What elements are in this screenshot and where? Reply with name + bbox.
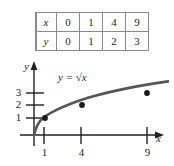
sqrt-curve	[34, 81, 168, 135]
table-cell-y-1: 1	[80, 32, 103, 51]
x-tick-label-4: 4	[76, 146, 87, 158]
math-figure: x 0 1 4 9 y 0 1 2 3	[0, 0, 174, 166]
table-cell-y-3: 3	[126, 32, 149, 51]
table-cell-x-3: 9	[126, 13, 149, 32]
data-point-4-2	[79, 102, 85, 108]
table-cell-x-0: 0	[57, 13, 80, 32]
table-cell-x-1: 1	[80, 13, 103, 32]
x-axis	[20, 132, 164, 139]
table-row-header-y: y	[36, 32, 57, 51]
table-row: x 0 1 4 9	[36, 13, 149, 32]
x-tick-label-1: 1	[39, 146, 50, 158]
table-cell-y-2: 2	[103, 32, 126, 51]
data-point-1-1	[42, 115, 48, 121]
equation-label: y = √x	[58, 71, 87, 83]
y-tick-marks	[26, 93, 44, 118]
table-double-rule	[56, 12, 57, 50]
graph-panel: y x 3 2 1 1 4 9 y = √x	[0, 58, 174, 166]
table-cell-x-2: 4	[103, 13, 126, 32]
y-tick-label-2: 2	[13, 98, 24, 110]
x-axis-label: x	[156, 132, 161, 144]
table-row: y 0 1 2 3	[36, 32, 149, 51]
table-cell-y-0: 0	[57, 32, 80, 51]
value-table: x 0 1 4 9 y 0 1 2 3	[35, 12, 149, 51]
y-tick-label-1: 1	[13, 111, 24, 123]
x-tick-label-9: 9	[142, 146, 153, 158]
table-row-header-x: x	[36, 13, 57, 32]
data-point-9-3	[144, 90, 150, 96]
y-tick-label-3: 3	[13, 86, 24, 98]
y-axis-label: y	[24, 60, 29, 72]
